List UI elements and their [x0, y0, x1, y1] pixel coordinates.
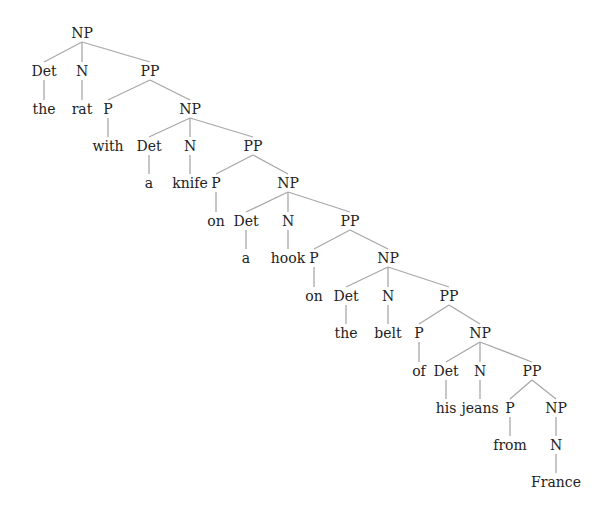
tree-node-word: belt	[374, 325, 401, 341]
tree-node-category: P	[309, 250, 318, 266]
tree-node-category: PP	[141, 63, 160, 79]
tree-edge	[480, 342, 532, 362]
tree-node-category: NP	[469, 325, 491, 341]
tree-node-category: Det	[233, 213, 258, 229]
tree-node-category: NP	[179, 101, 201, 117]
tree-node-category: NP	[377, 250, 399, 266]
tree-edge	[190, 118, 253, 137]
tree-node-word: from	[493, 437, 527, 453]
tree-edge	[532, 380, 556, 399]
tree-edge	[288, 192, 350, 212]
tree-node-category: P	[103, 101, 112, 117]
tree-node-category: NP	[71, 25, 93, 41]
tree-edge	[246, 192, 288, 212]
tree-node-word: a	[145, 175, 153, 191]
tree-edge	[388, 267, 449, 287]
tree-node-category: Det	[31, 63, 56, 79]
tree-edge	[350, 230, 388, 249]
tree-node-category: N	[474, 363, 486, 379]
tree-node-category: NP	[545, 400, 567, 416]
tree-node-category: PP	[523, 363, 542, 379]
tree-edge	[253, 155, 288, 174]
tree-node-category: N	[550, 437, 562, 453]
tree-node-category: N	[382, 288, 394, 304]
tree-node-category: NP	[277, 175, 299, 191]
tree-edge	[149, 118, 190, 137]
tree-node-word: hook	[271, 250, 305, 266]
tree-node-category: P	[505, 400, 514, 416]
tree-edge	[446, 342, 480, 362]
tree-edge	[449, 305, 480, 324]
tree-node-category: PP	[440, 288, 459, 304]
tree-node-word: knife	[172, 175, 207, 191]
tree-edge	[314, 230, 350, 249]
tree-node-category: P	[211, 175, 220, 191]
tree-edge	[510, 380, 532, 399]
tree-node-category: N	[184, 138, 196, 154]
tree-edge	[82, 42, 150, 62]
tree-node-category: PP	[244, 138, 263, 154]
tree-edge	[108, 80, 150, 100]
tree-node-word: jeans	[461, 400, 498, 416]
tree-node-word: rat	[72, 101, 93, 117]
tree-node-category: N	[282, 213, 294, 229]
tree-node-category: N	[76, 63, 88, 79]
tree-edge	[216, 155, 253, 174]
tree-node-word: on	[305, 288, 322, 304]
tree-node-category: Det	[433, 363, 458, 379]
tree-node-word: of	[412, 363, 426, 379]
tree-node-word: on	[207, 213, 224, 229]
tree-node-category: Det	[136, 138, 161, 154]
tree-node-category: Det	[333, 288, 358, 304]
tree-node-word: the	[33, 101, 56, 117]
tree-edge	[346, 267, 388, 287]
tree-node-word: with	[92, 138, 123, 154]
tree-edge	[150, 80, 190, 100]
tree-edge	[419, 305, 449, 324]
tree-node-word: his	[436, 400, 457, 416]
tree-node-category: P	[414, 325, 423, 341]
tree-node-category: PP	[341, 213, 360, 229]
tree-node-word: France	[531, 474, 581, 490]
tree-node-word: the	[335, 325, 358, 341]
tree-node-word: a	[242, 250, 250, 266]
tree-edge	[44, 42, 82, 62]
